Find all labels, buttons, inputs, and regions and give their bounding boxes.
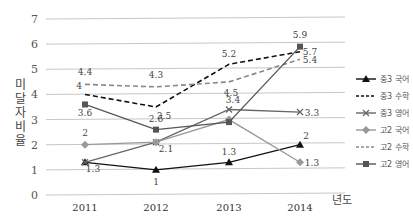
svg-text:5: 5 bbox=[31, 63, 38, 76]
data-labels: 11.3243.55.25.71.32.13.43.321.34.44.34.5… bbox=[76, 30, 319, 187]
legend-swatch-icon bbox=[355, 92, 377, 100]
legend: 중3 국어 중3 수학 중3 영어 고2 국어 고2 수학 고2 영어 bbox=[355, 70, 413, 172]
svg-text:4: 4 bbox=[76, 81, 82, 91]
svg-text:4.5: 4.5 bbox=[224, 88, 239, 98]
y-axis-label: 미달자비율 bbox=[12, 78, 28, 148]
svg-text:5.2: 5.2 bbox=[222, 49, 236, 59]
svg-text:3.6: 3.6 bbox=[78, 108, 93, 118]
legend-swatch-icon bbox=[355, 109, 377, 117]
svg-text:2013: 2013 bbox=[216, 202, 241, 213]
svg-text:2.6: 2.6 bbox=[149, 114, 164, 124]
legend-item: 중3 영어 bbox=[355, 104, 413, 121]
legend-item: 고2 국어 bbox=[355, 121, 413, 138]
svg-text:7: 7 bbox=[31, 13, 38, 26]
svg-text:1.3: 1.3 bbox=[86, 164, 101, 174]
svg-text:1: 1 bbox=[31, 164, 38, 177]
legend-item: 고2 영어 bbox=[355, 155, 413, 172]
svg-text:1.3: 1.3 bbox=[305, 158, 320, 168]
svg-text:2014: 2014 bbox=[287, 202, 312, 213]
svg-text:3.3: 3.3 bbox=[305, 108, 320, 118]
x-axis-unit-label: 년도 bbox=[332, 191, 352, 207]
svg-text:6: 6 bbox=[31, 38, 38, 51]
legend-item: 중3 국어 bbox=[355, 70, 413, 87]
legend-label: 고2 영어 bbox=[380, 158, 409, 169]
svg-text:2012: 2012 bbox=[143, 202, 168, 213]
svg-text:2.1: 2.1 bbox=[159, 144, 173, 154]
legend-swatch-icon bbox=[355, 126, 377, 134]
x-axis-ticks: 2011201220132014 bbox=[72, 202, 312, 213]
legend-swatch-icon bbox=[355, 75, 377, 83]
svg-text:2: 2 bbox=[82, 128, 88, 138]
line-chart: 01234567 2011201220132014 11.3243.55.25.… bbox=[0, 0, 413, 221]
legend-label: 고2 국어 bbox=[380, 124, 409, 135]
svg-text:4.4: 4.4 bbox=[78, 67, 93, 77]
svg-text:4.3: 4.3 bbox=[149, 70, 164, 80]
svg-text:5.9: 5.9 bbox=[293, 30, 308, 40]
legend-label: 중3 국어 bbox=[380, 73, 409, 84]
legend-label: 중3 수학 bbox=[380, 90, 409, 101]
svg-text:3: 3 bbox=[31, 114, 38, 127]
svg-text:1.3: 1.3 bbox=[222, 147, 237, 157]
legend-swatch-icon bbox=[355, 143, 377, 151]
svg-text:2011: 2011 bbox=[72, 202, 97, 213]
legend-item: 고2 수학 bbox=[355, 138, 413, 155]
svg-text:4: 4 bbox=[31, 88, 38, 101]
svg-text:5.4: 5.4 bbox=[303, 55, 318, 65]
svg-text:0: 0 bbox=[31, 189, 38, 202]
legend-label: 고2 수학 bbox=[380, 141, 409, 152]
svg-text:2: 2 bbox=[31, 139, 38, 152]
legend-item: 중3 수학 bbox=[355, 87, 413, 104]
legend-label: 중3 영어 bbox=[380, 107, 409, 118]
y-axis-ticks: 01234567 bbox=[31, 13, 38, 202]
svg-text:1: 1 bbox=[153, 177, 159, 187]
series-lines bbox=[81, 44, 304, 173]
svg-text:2: 2 bbox=[303, 131, 309, 141]
legend-swatch-icon bbox=[355, 160, 377, 168]
